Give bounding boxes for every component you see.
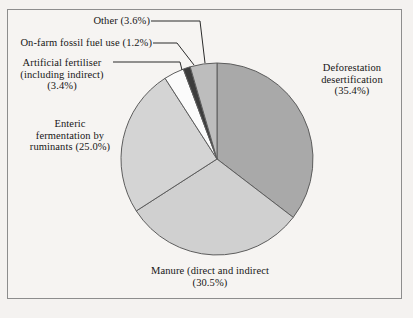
figure-frame [7, 9, 402, 299]
slice-label-manure: Manure (direct and indirect (30.5%) [120, 265, 300, 288]
slice-label-other: Other (3.6%) [60, 15, 150, 27]
slice-label-artificial-fertiliser: Artificial fertiliser (including indirec… [8, 57, 116, 92]
slice-label-on-farm-fossil-fuel: On-farm fossil fuel use (1.2%) [4, 37, 152, 49]
slice-label-deforestation: Deforestation desertification (35.4%) [300, 62, 404, 97]
slice-label-enteric-fermentation: Enteric fermentation by ruminants (25.0%… [18, 118, 122, 153]
pie-chart-figure: Other (3.6%) On-farm fossil fuel use (1.… [0, 0, 413, 318]
